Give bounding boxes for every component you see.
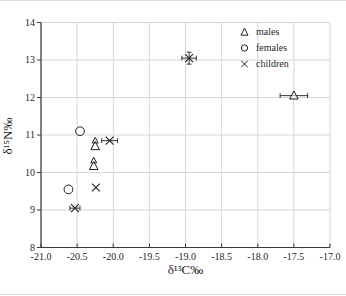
x-tick-label: -18.0 bbox=[247, 251, 268, 262]
triangle-marker-icon bbox=[238, 26, 251, 38]
legend-item-children: children bbox=[238, 56, 289, 72]
x-tick-label: -19.0 bbox=[175, 251, 196, 262]
legend-item-males: males bbox=[238, 24, 289, 40]
y-tick-label: 12 bbox=[25, 92, 35, 103]
chart-canvas: -21.0-20.5-20.0-19.5-19.0-18.5-18.0-17.5… bbox=[0, 0, 346, 296]
x-tick-label: -20.5 bbox=[67, 251, 88, 262]
legend-item-females: females bbox=[238, 40, 289, 56]
circle-marker-icon bbox=[238, 42, 251, 54]
y-tick-label: 9 bbox=[30, 204, 35, 215]
data-point-children bbox=[92, 184, 100, 192]
legend-item-label: females bbox=[256, 40, 287, 56]
chart-legend: males females children bbox=[238, 24, 289, 72]
y-tick-label: 11 bbox=[25, 129, 35, 140]
x-tick-label: -20.0 bbox=[103, 251, 124, 262]
data-point-females bbox=[76, 127, 85, 136]
data-point-females bbox=[64, 185, 73, 194]
x-axis-label: δ¹³C‰ bbox=[41, 262, 330, 278]
y-tick-label: 13 bbox=[25, 54, 35, 65]
isotope-scatter-figure: -21.0-20.5-20.0-19.5-19.0-18.5-18.0-17.5… bbox=[0, 0, 346, 296]
x-tick-label: -18.5 bbox=[211, 251, 232, 262]
x-tick-label: -19.5 bbox=[139, 251, 160, 262]
legend-item-label: males bbox=[256, 24, 279, 40]
legend-item-label: children bbox=[256, 56, 289, 72]
y-tick-label: 14 bbox=[25, 17, 35, 28]
y-tick-label: 10 bbox=[25, 167, 35, 178]
x-tick-label: -17.5 bbox=[283, 251, 304, 262]
data-point-males bbox=[290, 91, 299, 99]
y-axis-label: δ¹⁵N‰ bbox=[0, 71, 16, 201]
x-marker-icon bbox=[238, 58, 251, 70]
y-tick-label: 8 bbox=[30, 242, 35, 253]
x-tick-label: -17.0 bbox=[320, 251, 341, 262]
